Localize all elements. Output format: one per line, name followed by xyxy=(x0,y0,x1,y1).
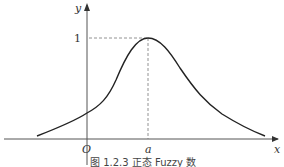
x-axis-arrow-icon xyxy=(272,136,279,142)
x-tick-a: a xyxy=(145,143,152,156)
membership-curve xyxy=(37,38,265,136)
y-axis-arrow-icon xyxy=(84,3,90,11)
y-axis-label: y xyxy=(74,2,82,15)
figure-caption: 图 1.2.3 正态 Fuzzy 数 xyxy=(90,156,196,167)
y-tick-1: 1 xyxy=(74,32,81,45)
x-axis-label: x xyxy=(274,143,281,156)
fuzzy-number-chart: y 1 O a x 图 1.2.3 正态 Fuzzy 数 xyxy=(0,0,284,167)
origin-label: O xyxy=(82,143,91,156)
